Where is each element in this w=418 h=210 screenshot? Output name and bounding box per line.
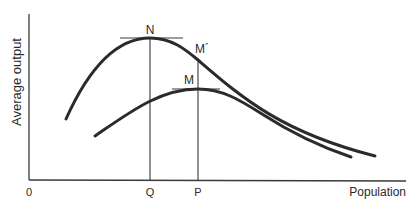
- upper-average-output-curve: [66, 38, 375, 156]
- x-axis-label: Population: [349, 185, 406, 199]
- x-tick-q: Q: [146, 186, 155, 198]
- average-output-population-diagram: N M´ M 0 Q P Population Average output: [0, 0, 418, 210]
- point-label-m: M: [184, 73, 194, 87]
- origin-label: 0: [26, 186, 32, 198]
- point-label-n: N: [146, 23, 155, 37]
- x-axis: [29, 180, 406, 181]
- y-axis-label: Average output: [9, 38, 24, 126]
- lower-average-output-curve: [95, 89, 351, 157]
- x-tick-p: P: [194, 186, 201, 198]
- point-label-m-prime: M´: [195, 42, 209, 56]
